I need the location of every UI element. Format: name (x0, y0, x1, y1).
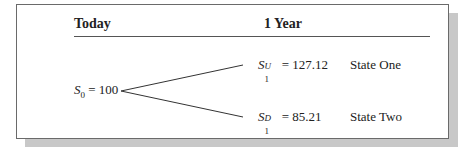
down-node: SD1 = 85.21 (258, 109, 322, 125)
up-node: SU1 = 127.12 (258, 57, 328, 73)
up-branch (121, 65, 243, 91)
down-branch (121, 91, 243, 117)
tree-branches (0, 0, 468, 154)
root-node: S0 = 100 (74, 82, 118, 98)
up-state-label: State One (350, 57, 401, 73)
down-state-label: State Two (350, 109, 402, 125)
